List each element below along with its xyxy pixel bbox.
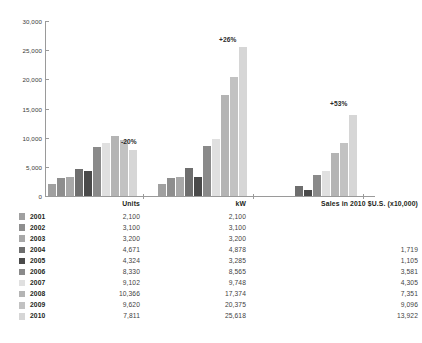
x-axis-group-separator [253, 194, 254, 199]
cell-sales-value: 7,351 [270, 288, 422, 299]
cell-sales-value: 13,922 [270, 310, 422, 321]
y-axis-tick-label: 5,000 [26, 163, 42, 170]
table-body: 20012,1002,10020023,1003,10020033,2003,2… [0, 211, 422, 322]
bar [194, 177, 202, 196]
legend-swatch-cell [0, 277, 30, 288]
cell-kw-value: 17,374 [156, 288, 270, 299]
bar [185, 168, 193, 196]
bar [221, 95, 229, 196]
cell-units-value: 8,330 [62, 266, 156, 277]
col-header-kw: kW [156, 200, 270, 211]
row-year-label: 2009 [30, 299, 62, 310]
percent-change-annotation: +26% [219, 36, 236, 43]
legend-swatch [19, 258, 26, 265]
legend-swatch-cell [0, 244, 30, 255]
bar [295, 186, 303, 196]
table-row: 20033,2003,200 [0, 233, 422, 244]
legend-swatch [19, 302, 26, 309]
bar [331, 153, 339, 196]
cell-kw-value: 3,200 [156, 233, 270, 244]
series-value-table: Units kW Sales in 2010 $U.S. (x10,000) 2… [0, 200, 422, 321]
cell-units-value: 9,620 [62, 299, 156, 310]
cell-units-value: 3,200 [62, 233, 156, 244]
row-year-label: 2005 [30, 255, 62, 266]
row-year-label: 2004 [30, 244, 62, 255]
table-row: 20023,1003,100 [0, 222, 422, 233]
legend-swatch-cell [0, 299, 30, 310]
cell-sales-value [270, 233, 422, 244]
y-axis-tick-labels: 05,00010,00015,00020,00025,00030,000 [0, 0, 42, 200]
cell-units-value: 10,366 [62, 288, 156, 299]
bar [176, 177, 184, 196]
bar-group [268, 21, 358, 196]
col-header-sales: Sales in 2010 $U.S. (x10,000) [270, 200, 422, 211]
y-axis-tick-mark [45, 196, 49, 197]
cell-sales-value: 4,305 [270, 277, 422, 288]
legend-swatch-cell [0, 222, 30, 233]
bar [120, 140, 128, 196]
row-year-label: 2010 [30, 310, 62, 321]
legend-swatch [19, 235, 26, 242]
cell-units-value: 3,100 [62, 222, 156, 233]
y-axis-tick-label: 0 [38, 193, 42, 200]
cell-kw-value: 9,748 [156, 277, 270, 288]
legend-swatch [19, 291, 26, 298]
y-axis-tick-label: 15,000 [22, 105, 42, 112]
row-year-label: 2006 [30, 266, 62, 277]
col-header-swatch [0, 200, 30, 211]
cell-sales-value: 1,719 [270, 244, 422, 255]
percent-change-annotation: -20% [121, 138, 137, 145]
col-header-units: Units [62, 200, 156, 211]
bar [57, 178, 65, 196]
bar [158, 184, 166, 196]
bar [349, 115, 357, 196]
legend-swatch-cell [0, 266, 30, 277]
cell-sales-value: 3,581 [270, 266, 422, 277]
bar [48, 184, 56, 196]
cell-kw-value: 20,375 [156, 299, 270, 310]
y-axis-tick-label: 10,000 [22, 134, 42, 141]
cell-kw-value: 8,565 [156, 266, 270, 277]
bar [66, 177, 74, 196]
cell-sales-value: 9,096 [270, 299, 422, 310]
bar-group [158, 21, 248, 196]
cell-sales-value: 1,105 [270, 255, 422, 266]
cell-kw-value: 2,100 [156, 211, 270, 222]
cell-kw-value: 3,100 [156, 222, 270, 233]
table-header-row: Units kW Sales in 2010 $U.S. (x10,000) [0, 200, 422, 211]
bar [322, 171, 330, 196]
row-year-label: 2001 [30, 211, 62, 222]
cell-units-value: 9,102 [62, 277, 156, 288]
legend-swatch-cell [0, 255, 30, 266]
cell-units-value: 4,324 [62, 255, 156, 266]
cell-units-value: 4,671 [62, 244, 156, 255]
col-header-year [30, 200, 62, 211]
cell-kw-value: 4,878 [156, 244, 270, 255]
bar [212, 139, 220, 196]
legend-swatch [19, 247, 26, 254]
row-year-label: 2008 [30, 288, 62, 299]
table-row: 20079,1029,7484,305 [0, 277, 422, 288]
bar [111, 136, 119, 196]
bar [167, 178, 175, 196]
bar [75, 169, 83, 196]
legend-swatch-cell [0, 211, 30, 222]
bar [340, 143, 348, 196]
bar [93, 147, 101, 196]
legend-swatch [19, 224, 26, 231]
row-year-label: 2003 [30, 233, 62, 244]
cell-sales-value [270, 211, 422, 222]
bar [84, 171, 92, 196]
x-axis-group-separator [363, 194, 364, 199]
bar [230, 77, 238, 196]
bar [313, 175, 321, 196]
x-axis-line [45, 196, 375, 197]
bar-chart-plot-area: 05,00010,00015,00020,00025,00030,000 -20… [0, 0, 380, 200]
percent-change-annotation: +53% [330, 100, 347, 107]
table-row: 200810,36617,3747,351 [0, 288, 422, 299]
x-axis-group-separator [143, 194, 144, 199]
bar [239, 47, 247, 196]
legend-swatch [19, 269, 26, 276]
legend-swatch-cell [0, 310, 30, 321]
table-row: 20012,1002,100 [0, 211, 422, 222]
